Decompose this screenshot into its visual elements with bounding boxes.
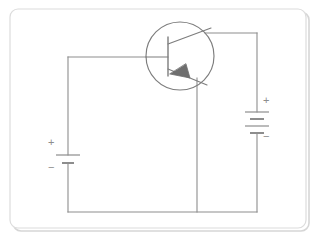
battery-left-plus-label: +: [48, 137, 54, 148]
battery-left-minus-label: −: [48, 162, 54, 173]
battery-right-plus-label: +: [263, 95, 269, 106]
circuit-diagram-figure: + − + −: [0, 0, 321, 246]
battery-right-minus-label: −: [263, 131, 269, 142]
circuit-schematic-canvas: [0, 0, 321, 246]
